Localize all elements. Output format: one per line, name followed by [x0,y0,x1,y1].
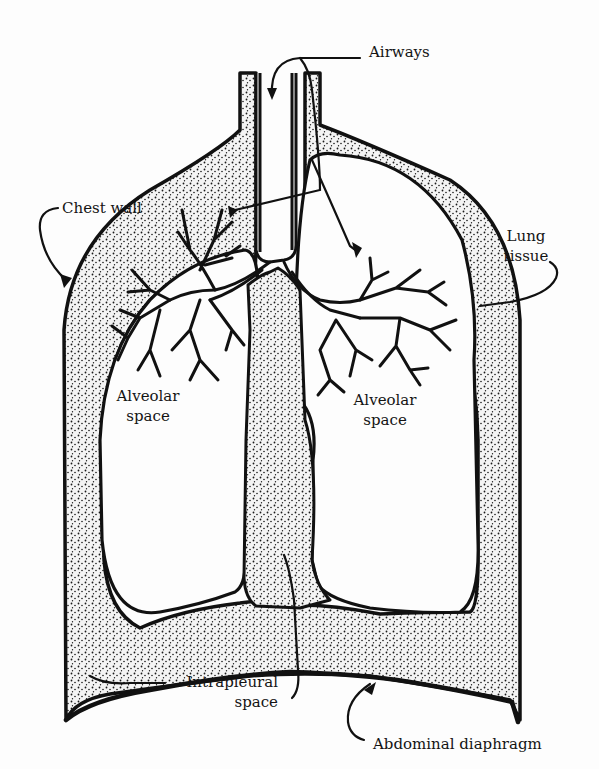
label-alveolar-space-right: Alveolar space [345,390,425,430]
lung-diagram [0,0,599,769]
label-intrapleural-space: Intrapleural space [168,672,278,712]
diaphragm-leader [348,684,370,740]
diagram-canvas: Airways Chest wall Lung tissue Alveolar … [0,0,599,769]
right-lung [296,153,478,612]
label-airways: Airways [369,42,430,62]
label-lung-tissue-line2: tissue [496,246,556,266]
label-alveolar-left-line1: Alveolar [108,386,188,406]
label-intrapleural-line2: space [168,692,278,712]
label-chest-wall: Chest wall [62,198,142,218]
arrowhead-icon [60,274,72,288]
chest-wall-leader [40,208,66,280]
label-lung-tissue-line1: Lung [496,226,556,246]
label-lung-tissue: Lung tissue [496,226,556,266]
label-alveolar-left-line2: space [108,406,188,426]
label-abdominal-diaphragm: Abdominal diaphragm [373,734,542,754]
label-alveolar-right-line1: Alveolar [345,390,425,410]
trachea [256,73,296,262]
label-alveolar-right-line2: space [345,410,425,430]
label-intrapleural-line1: Intrapleural [168,672,278,692]
label-alveolar-space-left: Alveolar space [108,386,188,426]
